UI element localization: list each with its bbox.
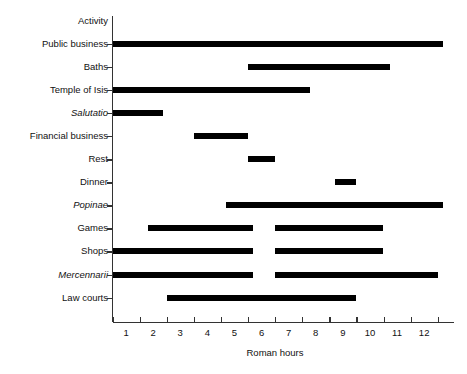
y-axis-tick (107, 251, 112, 252)
x-axis-tick (221, 317, 222, 322)
category-label: Law courts (3, 293, 108, 303)
bar-shops-1 (275, 248, 383, 254)
category-label: Salutatio (3, 108, 108, 118)
y-axis-tick (107, 44, 112, 45)
y-axis-tick (107, 67, 112, 68)
y-axis-label-popinae: Popinae (0, 200, 108, 210)
y-axis-tick (107, 275, 112, 276)
x-axis-tick-label: 1 (111, 328, 141, 338)
x-axis-title: Roman hours (175, 347, 375, 358)
category-label: Baths (3, 62, 108, 72)
y-axis-tick (107, 113, 112, 114)
bar-temple-of-isis-0 (113, 87, 311, 93)
bar-games-1 (275, 225, 383, 231)
category-label: Dinner (3, 177, 108, 187)
x-axis-tick (329, 317, 330, 322)
bar-law-courts-0 (167, 295, 357, 301)
x-axis-tick-label: 8 (301, 328, 331, 338)
y-axis-label-public-business: Public business (0, 39, 108, 49)
category-label: Rest (3, 154, 108, 164)
y-axis-label-games: Games (0, 223, 108, 233)
x-axis-tick (411, 317, 412, 322)
bar-mercennarii-1 (275, 272, 438, 278)
y-axis-tick (107, 205, 112, 206)
category-label: Games (3, 223, 108, 233)
x-axis-tick (194, 317, 195, 322)
x-axis-tick (113, 317, 114, 322)
bar-popinae-0 (226, 202, 443, 208)
x-axis-tick-label: 12 (409, 328, 439, 338)
category-label: Financial business (3, 131, 108, 141)
bar-public-business-0 (113, 41, 444, 47)
bar-shops-0 (113, 248, 254, 254)
bar-financial-business-0 (194, 133, 248, 139)
y-axis-tick (107, 90, 112, 91)
x-axis-tick-label: 3 (165, 328, 195, 338)
x-axis-tick-label: 2 (138, 328, 168, 338)
bar-baths-0 (248, 64, 390, 70)
y-axis-title-wrap: Activity (0, 16, 108, 26)
x-axis-tick-label: 11 (382, 328, 412, 338)
bar-rest-0 (248, 156, 275, 162)
y-axis-tick (107, 159, 112, 160)
y-axis-tick (107, 182, 112, 183)
bar-mercennarii-0 (113, 272, 254, 278)
y-axis-label-salutatio: Salutatio (0, 108, 108, 118)
category-label: Public business (3, 39, 108, 49)
x-axis-tick-label: 9 (328, 328, 358, 338)
x-axis-line (113, 322, 454, 323)
y-axis-label-financial-business: Financial business (0, 131, 108, 141)
y-axis-tick (107, 228, 112, 229)
x-axis-tick (140, 317, 141, 322)
y-axis-label-temple-of-isis: Temple of Isis (0, 85, 108, 95)
x-axis-tick-label: 5 (219, 328, 249, 338)
y-axis-label-rest: Rest (0, 154, 108, 164)
y-axis-tick (107, 136, 112, 137)
x-axis-tick (248, 317, 249, 322)
bar-salutatio-0 (113, 110, 163, 116)
x-axis-tick (384, 317, 385, 322)
category-label: Popinae (3, 200, 108, 210)
x-axis-tick (275, 317, 276, 322)
x-axis-tick-label: 10 (355, 328, 385, 338)
y-axis-label-mercennarii: Mercennarii (0, 270, 108, 280)
category-label: Temple of Isis (3, 85, 108, 95)
x-axis-tick-label: 4 (192, 328, 222, 338)
y-axis-tick (107, 298, 112, 299)
y-axis-label-dinner: Dinner (0, 177, 108, 187)
x-axis-tick-label: 7 (274, 328, 304, 338)
y-axis-label-baths: Baths (0, 62, 108, 72)
x-axis-tick (167, 317, 168, 322)
y-axis-label-shops: Shops (0, 246, 108, 256)
bar-games-0 (148, 225, 254, 231)
x-axis-tick (302, 317, 303, 322)
category-label: Mercennarii (3, 270, 108, 280)
y-axis-label-law-courts: Law courts (0, 293, 108, 303)
x-axis-tick (438, 317, 439, 322)
x-axis-tick-label: 6 (247, 328, 277, 338)
y-axis-title: Activity (3, 16, 108, 26)
bar-dinner-0 (335, 179, 357, 185)
category-label: Shops (3, 246, 108, 256)
x-axis-tick (356, 317, 357, 322)
roman-hours-gantt-chart: Activity Public businessBathsTemple of I… (0, 0, 467, 374)
